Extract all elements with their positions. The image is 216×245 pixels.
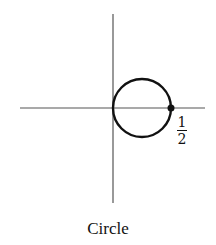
intercept-point (168, 105, 175, 112)
figure-caption: Circle (0, 219, 216, 239)
intercept-label-one-half: 1 2 (176, 115, 188, 146)
fraction-denominator: 2 (176, 132, 188, 146)
fraction-numerator: 1 (176, 115, 188, 129)
circle-diagram: 1 2 Circle (0, 0, 216, 245)
